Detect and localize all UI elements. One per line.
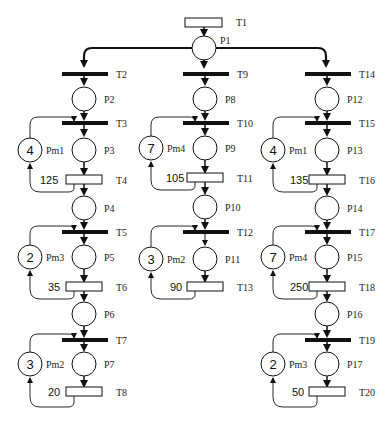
label-t15: T15 — [359, 118, 375, 129]
label-p17: P17 — [347, 359, 363, 370]
label-t8: T8 — [116, 387, 127, 398]
label-p14: P14 — [347, 203, 363, 214]
label-pm1-left: Pm1 — [46, 145, 64, 156]
label-pm3-left: Pm3 — [46, 252, 64, 263]
label-p9: P9 — [225, 143, 236, 154]
label-p12: P12 — [347, 94, 363, 105]
time-t11: 105 — [166, 172, 184, 184]
label-p2: P2 — [104, 94, 115, 105]
tokens-pm1-left: 4 — [26, 143, 33, 158]
time-t13: 90 — [170, 281, 182, 293]
petri-net-diagram: T1 P1 T2 P2 T3 P3 4 Pm1 125 T4 P4 T5 P5 … — [0, 0, 388, 424]
label-t6: T6 — [116, 282, 127, 293]
time-t16: 135 — [290, 174, 308, 186]
label-p15: P15 — [347, 252, 363, 263]
label-t20: T20 — [359, 387, 375, 398]
label-t14: T14 — [359, 69, 375, 80]
label-pm4-right: Pm4 — [289, 252, 307, 263]
label-p4: P4 — [104, 203, 115, 214]
label-t5: T5 — [116, 227, 127, 238]
label-pm3-right: Pm3 — [289, 359, 307, 370]
label-t12: T12 — [237, 227, 253, 238]
tokens-pm2-middle: 3 — [147, 252, 154, 267]
label-p11: P11 — [225, 254, 240, 265]
label-t16: T16 — [359, 175, 375, 186]
label-t7: T7 — [116, 335, 127, 346]
label-t2: T2 — [116, 69, 127, 80]
label-t10: T10 — [237, 118, 253, 129]
time-t20: 50 — [292, 386, 304, 398]
label-t11: T11 — [237, 173, 253, 184]
tokens-pm2-left: 3 — [26, 357, 33, 372]
label-p8: P8 — [225, 94, 236, 105]
label-t3: T3 — [116, 118, 127, 129]
label-pm2-middle: Pm2 — [167, 254, 185, 265]
label-t19: T19 — [359, 335, 375, 346]
label-t18: T18 — [359, 282, 375, 293]
label-p10: P10 — [225, 202, 241, 213]
time-t4: 125 — [40, 174, 58, 186]
label-p5: P5 — [104, 252, 115, 263]
tokens-pm1-right: 4 — [269, 143, 276, 158]
label-p13: P13 — [347, 145, 363, 156]
time-t8: 20 — [48, 386, 60, 398]
tokens-pm3-left: 2 — [26, 250, 33, 265]
tokens-pm3-right: 2 — [269, 357, 276, 372]
label-p1: P1 — [220, 35, 231, 46]
label-p3: P3 — [104, 145, 115, 156]
label-t4: T4 — [116, 175, 127, 186]
transition-t1: T1 — [185, 17, 247, 28]
label-p6: P6 — [104, 309, 115, 320]
label-t17: T17 — [359, 227, 375, 238]
label-t1: T1 — [236, 17, 247, 28]
time-t18: 250 — [290, 281, 308, 293]
label-t9: T9 — [237, 69, 248, 80]
label-pm4-middle: Pm4 — [167, 143, 185, 154]
tokens-pm4-middle: 7 — [147, 141, 154, 156]
label-p16: P16 — [347, 309, 363, 320]
label-t13: T13 — [237, 282, 253, 293]
tokens-pm4-right: 7 — [269, 250, 276, 265]
time-t6: 35 — [48, 281, 60, 293]
label-p7: P7 — [104, 359, 115, 370]
label-pm1-right: Pm1 — [289, 145, 307, 156]
label-pm2-left: Pm2 — [46, 359, 64, 370]
